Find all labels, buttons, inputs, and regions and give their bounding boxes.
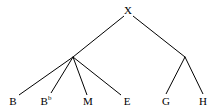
- edge-right-node-to-h: [185, 57, 203, 94]
- leaf-label-superscript: b: [48, 94, 52, 102]
- internal-node-left: [73, 57, 74, 58]
- edge-root-to-left-node: [73, 16, 124, 57]
- edge-left-node-to-b-sup: [51, 57, 73, 93]
- leaf-label-b: B: [9, 96, 16, 107]
- root-node-label: X: [124, 5, 132, 16]
- leaf-label-b-sup: Bb: [41, 95, 52, 107]
- tree-diagram: X B Bb M E G H: [0, 0, 221, 112]
- leaf-label-e: E: [124, 96, 131, 107]
- leaf-label-g: G: [162, 96, 170, 107]
- tree-edges-canvas: [0, 0, 221, 112]
- internal-node-right: [185, 57, 186, 58]
- edge-right-node-to-g: [166, 57, 185, 94]
- edge-left-node-to-b: [19, 57, 73, 95]
- leaf-label-m: M: [83, 96, 93, 107]
- edge-root-to-right-node: [133, 16, 185, 57]
- leaf-label-h: H: [199, 96, 207, 107]
